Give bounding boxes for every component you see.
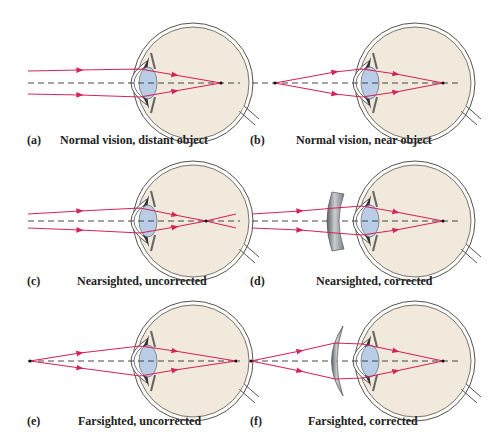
figure-diagram — [0, 0, 488, 446]
panel-f-diagram — [249, 301, 481, 421]
panel-d-diagram — [252, 161, 481, 281]
panel-e-caption: Farsighted, uncorrected — [78, 414, 201, 429]
panel-e-diagram — [28, 301, 259, 421]
panel-b-tag: (b) — [250, 133, 265, 148]
panel-c-tag: (c) — [27, 274, 40, 289]
panel-f-caption: Farsighted, corrected — [308, 414, 418, 429]
convex-lens-icon — [332, 326, 344, 396]
concave-lens-icon — [327, 192, 344, 251]
panel-a-diagram — [28, 23, 259, 143]
panel-e-tag: (e) — [27, 414, 40, 429]
panel-c-caption: Nearsighted, uncorrected — [77, 274, 207, 289]
panel-f-tag: (f) — [250, 414, 262, 429]
panel-b-diagram — [252, 23, 481, 143]
panel-b-caption: Normal vision, near object — [296, 133, 432, 148]
panel-a-tag: (a) — [27, 133, 41, 148]
panel-d-tag: (d) — [250, 274, 265, 289]
panel-a-caption: Normal vision, distant object — [60, 133, 208, 148]
panel-d-caption: Nearsighted, corrected — [316, 274, 432, 289]
panel-c-diagram — [28, 161, 259, 281]
eye-optics-figure: (a) Normal vision, distant object (b) No… — [0, 0, 488, 446]
